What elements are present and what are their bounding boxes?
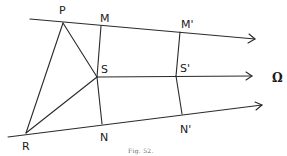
label-M-prime: M' [181,18,194,31]
segment-PS [63,23,97,77]
label-N: N [100,131,108,144]
omega-label: Ω [272,71,283,85]
label-N-prime: N' [180,123,191,136]
transversal-M'S'N'-lower [176,76,182,114]
label-P: P [59,4,66,17]
segment-PR [26,23,63,133]
middle-ray [97,76,252,77]
bottom-ray [8,105,262,137]
segment-RS [26,77,97,133]
figure-caption: Fig. 52. [128,147,154,155]
top-ray [30,19,255,39]
transversal-MSN-lower [97,77,102,124]
parallel-lines-diagram: P M M' S S' R N N' Ω Fig. 52. [0,0,287,156]
label-S: S [101,63,108,76]
label-S-prime: S' [180,62,190,75]
label-M: M [100,12,110,25]
label-R: R [22,140,30,153]
